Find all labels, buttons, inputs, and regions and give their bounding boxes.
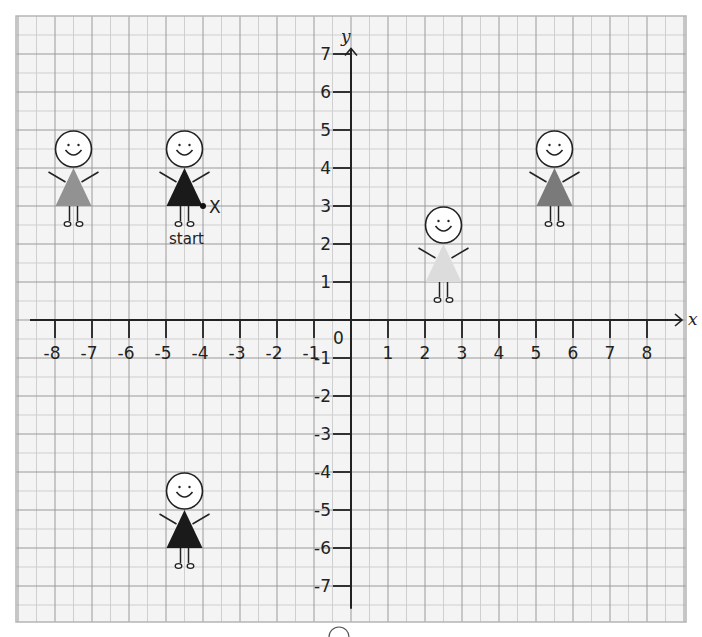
y-tick-label: 3	[320, 196, 331, 216]
left-eye	[437, 220, 439, 222]
y-tick-label: -1	[314, 348, 331, 368]
point-x-label: X	[209, 197, 221, 217]
x-tick-label: 4	[494, 343, 505, 363]
left-foot	[434, 298, 441, 303]
x-tick-label: 8	[642, 343, 653, 363]
origin-label: 0	[333, 328, 344, 348]
right-foot	[187, 222, 194, 227]
left-eye	[178, 486, 180, 488]
page-corner-circle-icon	[329, 627, 349, 637]
right-foot	[446, 298, 453, 303]
x-tick-label: 3	[457, 343, 468, 363]
right-eye	[558, 144, 560, 146]
right-foot	[187, 564, 194, 569]
x-tick-label: 2	[420, 343, 431, 363]
x-tick-label: -4	[192, 343, 209, 363]
y-tick-label: -7	[314, 576, 331, 596]
x-tick-label: 5	[531, 343, 542, 363]
x-tick-label: -6	[118, 343, 135, 363]
x-tick-label: -8	[44, 343, 61, 363]
x-axis-label: x	[688, 309, 698, 329]
right-eye	[77, 144, 79, 146]
right-eye	[447, 220, 449, 222]
y-tick-label: 1	[320, 272, 331, 292]
y-axis-label: y	[340, 26, 351, 46]
left-eye	[548, 144, 550, 146]
y-tick-label: 7	[320, 44, 331, 64]
left-foot	[64, 222, 71, 227]
left-foot	[545, 222, 552, 227]
smiley-head-icon	[167, 473, 203, 509]
y-tick-label: 5	[320, 120, 331, 140]
y-tick-label: 4	[320, 158, 331, 178]
smiley-head-icon	[56, 131, 92, 167]
y-tick-label: 2	[320, 234, 331, 254]
y-tick-label: -3	[314, 424, 331, 444]
coordinate-grid-diagram: x y 0 -8-7-6-5-4-3-2-112345678 7654321-1…	[0, 0, 702, 637]
right-foot	[557, 222, 564, 227]
left-eye	[178, 144, 180, 146]
point-x-dot	[200, 203, 206, 209]
y-tick-label: -2	[314, 386, 331, 406]
start-caption: start	[169, 230, 204, 248]
x-tick-label: 6	[568, 343, 579, 363]
y-tick-label: -4	[314, 462, 331, 482]
left-eye	[67, 144, 69, 146]
x-tick-label: -7	[81, 343, 98, 363]
right-eye	[188, 486, 190, 488]
smiley-head-icon	[426, 207, 462, 243]
x-tick-label: 7	[605, 343, 616, 363]
left-foot	[175, 564, 182, 569]
y-tick-label: -6	[314, 538, 331, 558]
x-tick-label: -3	[229, 343, 246, 363]
x-tick-label: -5	[155, 343, 172, 363]
right-eye	[188, 144, 190, 146]
y-tick-label: -5	[314, 500, 331, 520]
right-foot	[76, 222, 83, 227]
smiley-head-icon	[537, 131, 573, 167]
x-tick-label: -2	[266, 343, 283, 363]
left-foot	[175, 222, 182, 227]
x-tick-label: 1	[383, 343, 394, 363]
y-tick-label: 6	[320, 82, 331, 102]
smiley-head-icon	[167, 131, 203, 167]
